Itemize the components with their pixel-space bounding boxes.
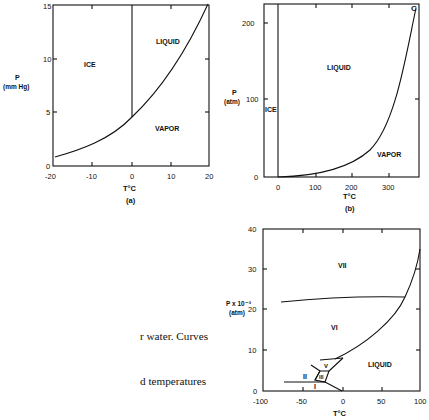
chart-c-v-liquid-line — [329, 358, 343, 371]
chart-a-ytick-5: 5 — [46, 108, 50, 117]
chart-a-panel-label: (a) — [126, 196, 136, 205]
figure-caption: r water. Curves d temperatures quid, and… — [0, 299, 200, 420]
chart-c-region-liquid: LIQUID — [368, 361, 392, 369]
chart-a: 15 10 5 0 -20 -10 0 10 20 ICE LIQUID VAP… — [3, 2, 213, 205]
chart-a-region-liquid: LIQUID — [156, 38, 180, 46]
chart-b-ytick-100: 100 — [246, 95, 259, 104]
caption-line: r water. Curves — [0, 329, 196, 344]
chart-b-xtick-100: 100 — [309, 183, 322, 192]
chart-b-region-ice: ICE — [265, 106, 277, 113]
chart-b-xtick-300: 300 — [382, 183, 395, 192]
chart-c-ytick-0: 0 — [253, 387, 257, 396]
chart-c-region-v: V — [324, 363, 328, 369]
chart-a-ytick-0: 0 — [46, 162, 50, 171]
chart-c-xtick-0: 0 — [341, 397, 345, 406]
chart-a-xtick-neg10: -10 — [86, 172, 97, 181]
chart-b-ytick-0: 0 — [254, 173, 258, 182]
chart-a-xtick-neg20: -20 — [45, 172, 56, 181]
chart-b-xlabel: T°C — [343, 192, 357, 201]
chart-a-region-vapor: VAPOR — [155, 125, 179, 132]
chart-a-ylabel: P — [15, 74, 20, 81]
chart-a-xtick-10: 10 — [167, 172, 175, 181]
chart-b-xtick-200: 200 — [345, 183, 358, 192]
chart-c-xlabel: T°C — [333, 409, 347, 418]
chart-c-region-ii: II — [303, 373, 307, 380]
chart-a-frame — [53, 5, 209, 166]
chart-c-xtick-100: 100 — [414, 397, 427, 406]
chart-c-y-ticks — [263, 269, 420, 350]
chart-b-region-liquid: LIQUID — [327, 64, 351, 72]
chart-c-xtick-neg50: -50 — [296, 397, 307, 406]
chart-c-v-vi-line — [320, 358, 343, 360]
chart-a-xlabel: T°C — [123, 184, 137, 193]
chart-b-ytick-200: 200 — [242, 19, 255, 28]
chart-c: 40 30 20 10 0 -100 -50 0 50 100 VII VI L… — [226, 225, 427, 418]
chart-a-xtick-20: 20 — [205, 172, 213, 181]
chart-c-xtick-neg100: -100 — [253, 397, 268, 406]
chart-c-region-vii: VII — [338, 262, 347, 269]
chart-c-i-liquid-line — [325, 382, 342, 391]
chart-a-y-ticks — [53, 59, 209, 112]
chart-c-ytick-30: 30 — [248, 265, 256, 274]
chart-c-region-i: I — [314, 383, 316, 390]
chart-c-ii-v-line — [311, 365, 320, 371]
chart-b-xtick-0: 0 — [276, 183, 280, 192]
chart-a-ylabel-units: (mm Hg) — [3, 83, 29, 91]
chart-c-frame — [263, 229, 420, 391]
chart-c-vi-vii-boundary — [281, 297, 405, 302]
chart-c-melting-curve — [335, 249, 420, 359]
chart-b-y-ticks — [264, 23, 419, 99]
chart-c-ytick-10: 10 — [248, 346, 256, 355]
chart-c-region-iii: III — [319, 374, 324, 380]
chart-b-region-vapor: VAPOR — [377, 151, 401, 158]
chart-b: 200 100 0 0 100 200 300 C ICE LIQUID VAP… — [224, 4, 419, 213]
chart-a-ytick-15: 15 — [43, 2, 51, 11]
chart-c-ytick-40: 40 — [248, 225, 256, 234]
chart-a-xtick-0: 0 — [130, 172, 134, 181]
chart-c-xtick-50: 50 — [377, 397, 385, 406]
chart-b-panel-label: (b) — [345, 204, 355, 213]
chart-b-ylabel: P — [232, 89, 237, 96]
chart-b-ylabel-units: (atm) — [224, 98, 240, 106]
chart-b-critical-point-label: C — [411, 4, 417, 13]
chart-a-ytick-10: 10 — [43, 55, 51, 64]
chart-a-region-ice: ICE — [84, 61, 96, 68]
chart-c-region-vi: VI — [331, 324, 338, 331]
chart-c-ylabel: P x 10⁻³ — [226, 300, 252, 307]
chart-c-ylabel-units: (atm) — [229, 309, 245, 317]
caption-line: d temperatures — [0, 374, 196, 389]
